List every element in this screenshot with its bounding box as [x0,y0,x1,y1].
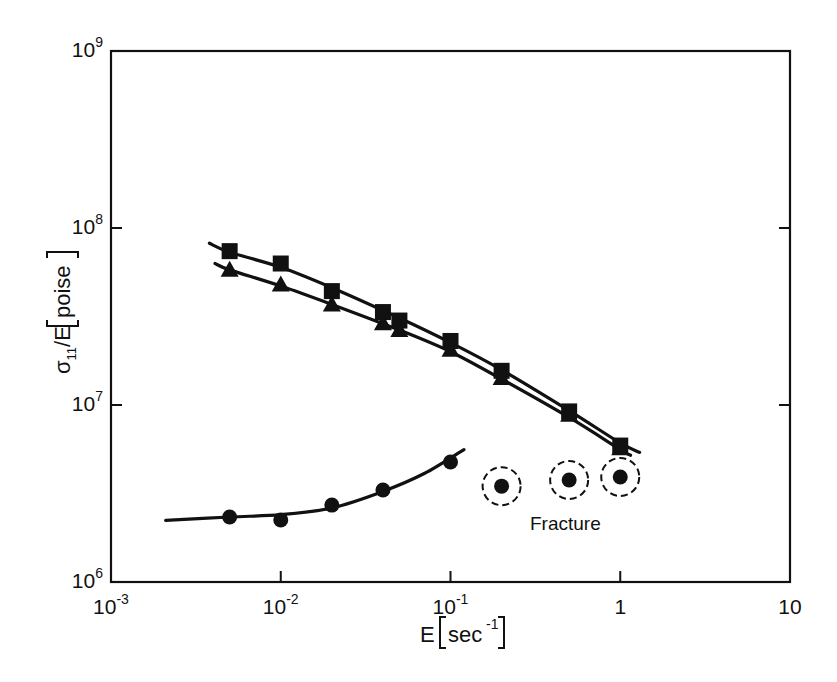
x-tick-label: 10-3 [93,591,129,618]
x-axis-bracket-left [440,617,446,648]
x-axis-ticks: 10-310-210-1110 [93,571,802,618]
y-tick-label: 108 [72,211,103,238]
y-axis-label-text: σ11/E [50,326,79,374]
x-tick-label: 10-2 [263,591,299,618]
x-tick-label: 10-1 [433,591,469,618]
fracture-annotation: Fracture [530,513,601,534]
x-axis-label-exp: -1 [486,616,499,632]
chart-canvas: 10-310-210-1110 106107108109 Fracture E … [0,0,837,682]
fracture-marker [494,479,509,494]
circle-marker [273,513,288,528]
circle-marker [375,482,390,497]
y-axis-ticks: 106107108109 [72,34,790,592]
circle-marker [222,509,237,524]
circles-fit-line [166,450,464,521]
square-marker [273,256,289,272]
y-axis-bracket-right [47,252,78,258]
y-axis-label-subscript: 11 [64,347,79,361]
x-axis-label-unit: sec [448,622,482,647]
square-marker [222,243,238,259]
x-axis-bracket-right [498,617,504,648]
y-tick-label: 107 [72,388,103,415]
fracture-marker [613,469,628,484]
plot-frame [111,51,790,582]
y-axis-bracket-left [47,320,78,326]
x-axis-label: E sec -1 [420,616,504,648]
triangles-fit-line [215,264,631,456]
fracture-marker [562,472,577,487]
x-tick-label: 10 [778,595,801,618]
x-tick-label: 1 [614,595,626,618]
y-axis-label-rest: /E [50,326,75,347]
circle-marker [443,455,458,470]
y-tick-label: 106 [72,565,103,592]
y-axis-label-unit: poise [50,265,75,318]
data-markers [221,243,640,527]
y-axis-label-sigma: σ [50,360,75,374]
y-axis-label: σ11/E poise [47,252,79,374]
plot-border [111,51,790,582]
y-tick-label: 109 [72,34,103,61]
x-axis-label-symbol: E [420,622,435,647]
circle-marker [324,498,339,513]
